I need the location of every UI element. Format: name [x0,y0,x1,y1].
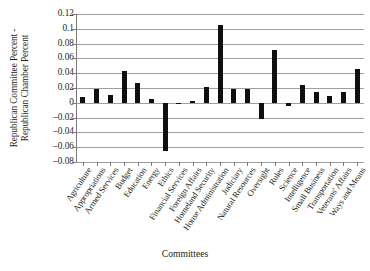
bar [245,89,250,103]
y-axis-title-line-2: Republican Chamber Percent [20,28,31,147]
bar [300,85,305,103]
y-axis-tick-label: 0.08 [34,39,74,48]
y-axis-tick-label: –0.02 [34,113,74,122]
bar-chart-figure: Republican Committee Percent - Republica… [0,0,370,271]
bar [355,69,360,103]
y-axis-tick-label: 0.1 [34,24,74,33]
bar [149,99,154,103]
y-axis-tick-labels: 0.120.10.080.060.040.020–0.02–0.04–0.06–… [34,14,74,162]
y-axis-tick-label: –0.06 [34,143,74,152]
y-axis-tick-label: 0.04 [34,69,74,78]
bar [176,103,181,104]
bar [94,89,99,103]
bar [259,103,264,119]
x-axis-title: Committees [0,248,370,259]
bar [286,103,291,106]
bar [108,95,113,103]
bar [218,25,223,103]
bar [163,103,168,151]
bar [204,87,209,103]
bar [272,50,277,103]
bar [80,97,85,103]
y-axis-tick-label: 0.06 [34,54,74,63]
bar [231,89,236,103]
y-axis-title-line-1: Republican Committee Percent - [9,28,20,147]
bar [135,83,140,103]
bar [327,96,332,103]
bar [190,101,195,102]
y-axis-tick-label: 0.12 [34,9,74,18]
bar [341,92,346,103]
bars-layer [76,14,364,162]
y-axis-tick-label: 0 [34,98,74,107]
bar [314,92,319,102]
x-axis-tick-labels: AgricultureAppropriationsArmed ServicesB… [0,162,370,242]
bar [122,71,127,103]
y-axis-tick-label: –0.04 [34,128,74,137]
y-axis-tick-label: 0.02 [34,83,74,92]
plot-area [76,14,364,162]
